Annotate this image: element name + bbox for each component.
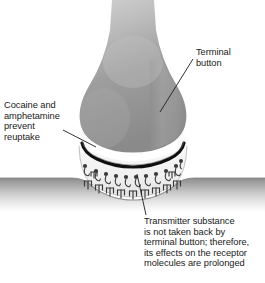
synapse-diagram: Terminal button Cocaine and amphetamine … bbox=[0, 0, 265, 283]
label-cocaine-amphetamine-prevent-reuptake: Cocaine and amphetamine prevent reuptake bbox=[4, 100, 60, 142]
label-terminal-button: Terminal button bbox=[196, 47, 231, 68]
terminal-button bbox=[78, 0, 190, 160]
label-transmitter-substance: Transmitter substance is not taken back … bbox=[144, 216, 249, 269]
